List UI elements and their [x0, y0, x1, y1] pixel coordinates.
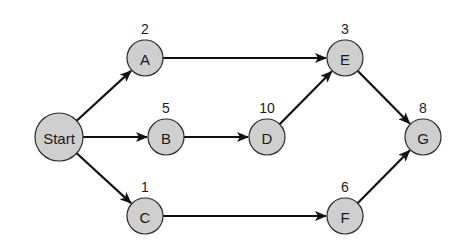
edges-layer: [77, 58, 410, 216]
edge-start-to-c: [77, 153, 131, 203]
node-label: F: [340, 209, 349, 226]
node-b: B5: [148, 100, 184, 155]
nodes-layer: StartA2B5C1D10E3F6G8: [35, 21, 441, 234]
duration-label: 10: [259, 100, 275, 116]
duration-label: 6: [341, 179, 349, 195]
duration-label: 2: [141, 21, 149, 37]
node-g: G8: [405, 100, 441, 155]
node-start: Start: [35, 113, 83, 161]
node-e: E3: [327, 21, 363, 76]
node-label: C: [140, 209, 151, 226]
node-label: G: [417, 130, 429, 147]
node-f: F6: [327, 179, 363, 234]
activity-network-diagram: StartA2B5C1D10E3F6G8: [0, 0, 461, 246]
duration-label: 8: [419, 100, 427, 116]
duration-label: 3: [341, 21, 349, 37]
node-c: C1: [127, 179, 163, 234]
edge-f-to-g: [358, 151, 410, 204]
edge-e-to-g: [358, 71, 410, 124]
node-label: A: [140, 51, 150, 68]
edge-start-to-a: [77, 71, 131, 121]
duration-label: 1: [141, 179, 149, 195]
edge-d-to-e: [280, 72, 332, 125]
node-label: D: [262, 130, 273, 147]
node-label: Start: [43, 130, 76, 147]
node-label: E: [340, 51, 350, 68]
node-d: D10: [249, 100, 285, 155]
node-a: A2: [127, 21, 163, 76]
node-label: B: [161, 130, 171, 147]
duration-label: 5: [162, 100, 170, 116]
